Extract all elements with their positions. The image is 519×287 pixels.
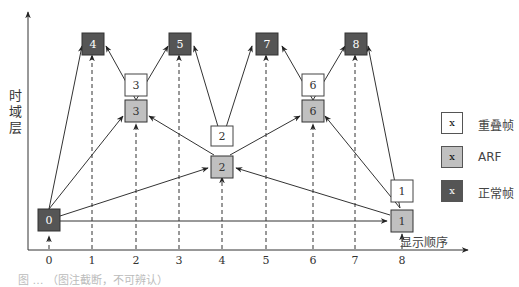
frame-2-arf: 2 (211, 156, 233, 178)
frame-1-overlay: 1 (391, 180, 413, 202)
svg-text:8: 8 (353, 38, 360, 51)
legend-label: ARF (478, 150, 501, 164)
svg-text:4: 4 (90, 38, 97, 51)
svg-text:3: 3 (133, 79, 140, 92)
legend-item-arf: x ARF (441, 146, 519, 172)
legend-item-overlay: x 重叠帧 (441, 112, 519, 138)
normal-swatch: x (441, 180, 463, 202)
svg-text:2: 2 (219, 130, 226, 143)
legend-label: 正常帧 (478, 184, 514, 201)
frame-2-overlay: 2 (211, 126, 233, 146)
x-tick: 6 (310, 254, 317, 267)
svg-text:0: 0 (46, 214, 53, 227)
frame-3-overlay: 3 (125, 74, 147, 96)
x-tick: 2 (133, 254, 140, 267)
arf-swatch: x (441, 146, 463, 168)
frame-8: 8 (345, 33, 367, 55)
svg-text:2: 2 (219, 161, 226, 174)
frame-5: 5 (169, 33, 191, 55)
frame-0: 0 (38, 209, 60, 231)
svg-text:3: 3 (133, 105, 140, 118)
frame-1-arf: 1 (391, 210, 413, 232)
x-tick: 7 (352, 254, 359, 267)
figure-caption-truncated: 图 … （图注截断，不可辨认） (18, 271, 168, 287)
svg-text:6: 6 (310, 79, 317, 92)
frame-6-arf: 6 (302, 100, 324, 122)
legend-label: 重叠帧 (478, 116, 514, 133)
display-order-guides (49, 55, 402, 249)
svg-text:1: 1 (399, 215, 406, 228)
svg-text:6: 6 (310, 105, 317, 118)
y-axis-label: 时域层 (9, 88, 23, 136)
x-tick: 0 (46, 254, 53, 267)
legend-item-normal: x 正常帧 (441, 180, 519, 206)
x-tick: 8 (399, 254, 406, 267)
overlay-swatch: x (441, 112, 463, 134)
frame-7: 7 (256, 33, 278, 55)
frame-6-overlay: 6 (302, 74, 324, 96)
x-axis-label: 显示顺序 (400, 233, 448, 250)
frame-3-arf: 3 (125, 100, 147, 122)
frame-4: 4 (82, 33, 104, 55)
x-tick: 3 (176, 254, 183, 267)
x-tick: 1 (89, 254, 96, 267)
x-tick: 4 (219, 254, 226, 267)
svg-text:5: 5 (177, 38, 184, 51)
svg-text:1: 1 (399, 185, 406, 198)
x-tick: 5 (263, 254, 270, 267)
svg-text:7: 7 (264, 38, 271, 51)
